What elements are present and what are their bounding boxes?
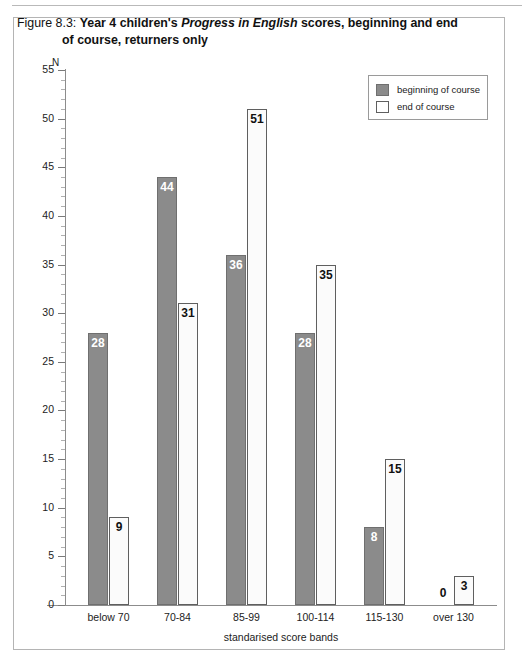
y-tick-label: 5 <box>8 549 54 561</box>
bar-value-label: 35 <box>317 269 335 282</box>
y-tick-minor <box>61 498 65 499</box>
y-tick-minor <box>61 576 65 577</box>
bar-end-70-84: 31 <box>178 303 198 605</box>
y-tick-minor <box>61 449 65 450</box>
y-tick-minor <box>61 586 65 587</box>
y-tick-major <box>58 119 65 120</box>
y-tick-label: 15 <box>8 452 54 464</box>
y-tick-minor <box>61 226 65 227</box>
y-tick-label: 50 <box>8 112 54 124</box>
y-tick-label: 30 <box>8 306 54 318</box>
bar-end-over-130: 3 <box>454 576 474 605</box>
y-tick-minor <box>61 430 65 431</box>
legend-item-end: end of course <box>376 98 487 115</box>
y-tick-major <box>58 167 65 168</box>
y-tick-label: 25 <box>8 355 54 367</box>
y-tick-minor <box>61 381 65 382</box>
y-tick-minor <box>61 333 65 334</box>
y-tick-label-text: 15 <box>14 452 54 464</box>
y-tick-minor <box>61 352 65 353</box>
y-tick-minor <box>61 595 65 596</box>
y-tick-minor <box>61 274 65 275</box>
y-tick-minor <box>61 255 65 256</box>
x-category-label: 100-114 <box>276 611 356 623</box>
bar-beginning-85-99: 36 <box>226 255 246 605</box>
y-tick-minor <box>61 342 65 343</box>
y-tick-label: 55 <box>8 63 54 75</box>
bar-value-label: 36 <box>227 259 245 272</box>
bar-value-label: 3 <box>455 580 473 593</box>
x-axis-line <box>47 605 497 606</box>
y-tick-label: 20 <box>8 403 54 415</box>
y-tick-minor <box>61 420 65 421</box>
bar-value-label: 44 <box>158 181 176 194</box>
y-tick-minor <box>61 158 65 159</box>
y-tick-minor <box>61 128 65 129</box>
x-axis-title: standarised score bands <box>65 631 497 643</box>
x-category-label: 85-99 <box>207 611 287 623</box>
y-tick-label-text: 35 <box>14 258 54 270</box>
y-tick-label-text: 0 <box>14 598 54 610</box>
legend-item-beginning: beginning of course <box>376 81 487 98</box>
y-tick-minor <box>61 547 65 548</box>
bar-value-label: 51 <box>248 113 266 126</box>
y-tick-label: 10 <box>8 501 54 513</box>
y-tick-minor <box>61 294 65 295</box>
bar-value-label: 31 <box>179 307 197 320</box>
bar-end-115-130: 15 <box>385 459 405 605</box>
y-tick-minor <box>61 537 65 538</box>
y-tick-major <box>58 362 65 363</box>
y-tick-minor <box>61 479 65 480</box>
y-tick-minor <box>61 177 65 178</box>
y-tick-label: 0 <box>8 598 54 610</box>
y-tick-label-text: 40 <box>14 209 54 221</box>
y-tick-minor <box>61 323 65 324</box>
y-tick-label: 40 <box>8 209 54 221</box>
x-category-label: below 70 <box>69 611 149 623</box>
y-tick-minor <box>61 303 65 304</box>
y-tick-minor <box>61 527 65 528</box>
y-tick-major <box>58 410 65 411</box>
y-tick-label-text: 25 <box>14 355 54 367</box>
y-tick-minor <box>61 80 65 81</box>
y-tick-minor <box>61 138 65 139</box>
bar-value-label: 28 <box>296 337 314 350</box>
y-tick-label-text: 55 <box>14 63 54 75</box>
bar-end-100-114: 35 <box>316 265 336 605</box>
bar-beginning-below-70: 28 <box>88 333 108 605</box>
y-tick-minor <box>61 187 65 188</box>
x-category-label: over 130 <box>414 611 494 623</box>
bar-beginning-100-114: 28 <box>295 333 315 605</box>
bar-beginning-70-84: 44 <box>157 177 177 605</box>
y-tick-major <box>58 70 65 71</box>
legend-label-end: end of course <box>397 101 455 112</box>
y-tick-major <box>58 459 65 460</box>
y-tick-minor <box>61 488 65 489</box>
bar-beginning-115-130: 8 <box>364 527 384 605</box>
chart-plot-area: N 0510152025303540455055 289443136512835… <box>0 0 528 665</box>
y-tick-label-text: 10 <box>14 501 54 513</box>
y-tick-minor <box>61 517 65 518</box>
y-axis-line <box>65 69 66 606</box>
y-tick-label-text: 5 <box>14 549 54 561</box>
y-tick-minor <box>61 372 65 373</box>
y-tick-minor <box>61 235 65 236</box>
y-tick-major <box>58 313 65 314</box>
y-tick-minor <box>61 391 65 392</box>
bar-end-85-99: 51 <box>247 109 267 605</box>
y-tick-minor <box>61 148 65 149</box>
x-category-label: 115-130 <box>345 611 425 623</box>
y-tick-major <box>58 265 65 266</box>
bar-value-label: 28 <box>89 337 107 350</box>
legend-swatch-beginning-icon <box>376 84 389 96</box>
y-tick-minor <box>61 469 65 470</box>
y-tick-major <box>58 216 65 217</box>
bar-value-label: 8 <box>365 531 383 544</box>
chart-legend: beginning of course end of course <box>368 75 488 120</box>
bar-end-below-70: 9 <box>109 517 129 605</box>
legend-label-beginning: beginning of course <box>397 84 480 95</box>
y-tick-minor <box>61 89 65 90</box>
bar-value-label: 15 <box>386 463 404 476</box>
y-tick-label-text: 20 <box>14 403 54 415</box>
bar-value-label-zero: 0 <box>431 586 455 600</box>
